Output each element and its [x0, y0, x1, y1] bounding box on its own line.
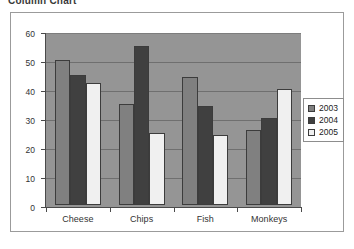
y-axis-tick: 30 [41, 120, 45, 121]
legend-label: 2003 [319, 104, 338, 113]
chart-frame: 0102030405060 CheeseChipsFishMonkeys 200… [10, 12, 344, 232]
bar-2004-cheese[interactable] [70, 75, 85, 206]
y-axis-tick-label: 0 [30, 203, 35, 213]
legend-swatch-icon [308, 105, 315, 112]
x-axis-tick [174, 208, 175, 212]
category-label: Monkeys [251, 214, 287, 224]
y-axis-tick: 40 [41, 91, 45, 92]
bar-2004-fish[interactable] [198, 106, 213, 205]
gridline [46, 62, 301, 63]
y-axis-tick: 20 [41, 149, 45, 150]
chart-legend: 200320042005 [303, 98, 344, 142]
gridline [46, 33, 301, 34]
bar-2003-cheese[interactable] [55, 60, 70, 205]
y-axis-tick: 10 [41, 178, 45, 179]
x-axis-tick [237, 208, 238, 212]
category-label: Cheese [62, 214, 93, 224]
y-tick-mark [41, 33, 45, 34]
bar-2005-cheese[interactable] [86, 83, 101, 205]
y-axis-tick-label: 20 [26, 145, 35, 155]
bar-2005-monkeys[interactable] [277, 89, 292, 205]
legend-item-2004[interactable]: 2004 [308, 114, 338, 126]
category-label: Chips [130, 214, 153, 224]
y-axis-tick: 60 [41, 33, 45, 34]
y-axis-tick-label: 10 [26, 174, 35, 184]
bar-2004-monkeys[interactable] [261, 118, 276, 205]
bar-2003-chips[interactable] [119, 104, 134, 206]
y-tick-mark [41, 149, 45, 150]
y-axis-line [45, 33, 46, 208]
bar-2004-chips[interactable] [134, 46, 149, 206]
y-axis-tick-label: 50 [26, 58, 35, 68]
legend-label: 2004 [319, 116, 338, 125]
bar-2003-monkeys[interactable] [246, 130, 261, 205]
legend-swatch-icon [308, 117, 315, 124]
y-axis-tick: 0 [41, 207, 45, 208]
x-axis-tick [46, 208, 47, 212]
x-axis-tick [110, 208, 111, 212]
y-axis-tick-label: 30 [26, 116, 35, 126]
y-tick-mark [41, 178, 45, 179]
page-title: Column Chart [8, 0, 77, 6]
legend-item-2005[interactable]: 2005 [308, 126, 338, 138]
y-axis-tick-label: 60 [26, 29, 35, 39]
legend-swatch-icon [308, 129, 315, 136]
y-tick-mark [41, 207, 45, 208]
y-axis-tick: 50 [41, 62, 45, 63]
y-axis-tick-label: 40 [26, 87, 35, 97]
y-tick-mark [41, 120, 45, 121]
bar-2003-fish[interactable] [182, 77, 197, 205]
y-tick-mark [41, 62, 45, 63]
bar-2005-chips[interactable] [149, 133, 164, 206]
legend-item-2003[interactable]: 2003 [308, 102, 338, 114]
legend-label: 2005 [319, 128, 338, 137]
bar-2005-fish[interactable] [213, 135, 228, 205]
y-tick-mark [41, 91, 45, 92]
category-label: Fish [197, 214, 214, 224]
x-axis-tick [301, 208, 302, 212]
